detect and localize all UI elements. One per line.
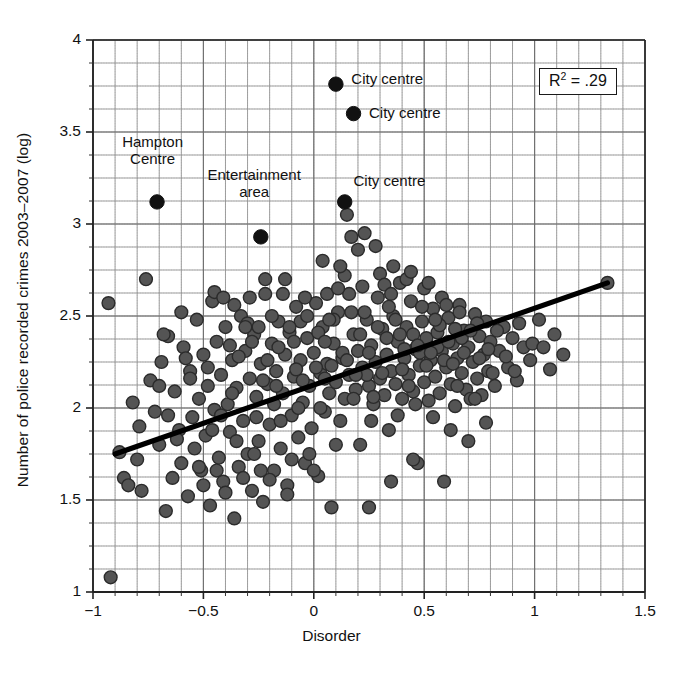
scatter-point	[391, 409, 404, 422]
annotation-entertainment-area-line2: area	[154, 183, 354, 200]
annotation-hampton-centre-line2: Centre	[53, 150, 253, 167]
scatter-point	[299, 291, 312, 304]
scatter-point	[420, 359, 433, 372]
scatter-point	[341, 208, 354, 221]
scatter-point	[332, 282, 345, 295]
scatter-point	[283, 321, 296, 334]
scatter-point	[422, 394, 435, 407]
scatter-point	[382, 300, 395, 313]
scatter-point	[250, 411, 263, 424]
scatter-point	[416, 315, 429, 328]
scatter-point	[486, 367, 499, 380]
scatter-point	[186, 411, 199, 424]
highlight-point	[346, 106, 360, 120]
scatter-point	[369, 240, 382, 253]
annotation-city-centre-1: City centre	[351, 70, 423, 87]
scatter-point	[389, 313, 402, 326]
scatter-point	[447, 357, 460, 370]
scatter-point	[157, 328, 170, 341]
scatter-point	[396, 392, 409, 405]
scatter-point	[243, 372, 256, 385]
scatter-point	[407, 453, 420, 466]
scatter-point	[307, 346, 320, 359]
scatter-point	[325, 359, 338, 372]
scatter-point	[228, 299, 241, 312]
scatter-point	[513, 317, 526, 330]
scatter-point	[201, 361, 214, 374]
scatter-point	[215, 368, 228, 381]
annotation-entertainment-area: Entertainment area	[154, 166, 354, 201]
scatter-point	[217, 291, 230, 304]
scatter-point	[394, 328, 407, 341]
scatter-point	[179, 352, 192, 365]
annotation-hampton-centre-line1: Hampton	[53, 133, 253, 150]
scatter-point	[279, 273, 292, 286]
scatter-point	[491, 324, 504, 337]
plot-canvas	[0, 0, 683, 673]
scatter-point	[458, 346, 471, 359]
scatter-point	[274, 442, 287, 455]
scatter-point	[314, 402, 327, 415]
scatter-point	[254, 464, 267, 477]
scatter-point	[318, 335, 331, 348]
scatter-point	[334, 260, 347, 273]
scatter-point	[482, 343, 495, 356]
scatter-point	[508, 365, 521, 378]
scatter-point	[135, 484, 148, 497]
highlight-point	[329, 77, 343, 91]
r-squared-symbol: R	[549, 72, 561, 89]
scatter-point	[347, 392, 360, 405]
scatter-point	[358, 306, 371, 319]
scatter-point	[544, 363, 557, 376]
scatter-point	[363, 501, 376, 514]
scatter-point	[363, 346, 376, 359]
scatter-point	[259, 288, 272, 301]
scatter-point	[148, 405, 161, 418]
scatter-point	[126, 396, 139, 409]
scatter-point	[246, 484, 259, 497]
annotation-city-centre-3: City centre	[354, 172, 426, 189]
x-axis-tick-label: 1	[505, 602, 565, 620]
scatter-point	[265, 310, 278, 323]
scatter-point	[159, 505, 172, 518]
scatter-point	[224, 339, 237, 352]
highlight-point	[254, 230, 268, 244]
scatter-point	[345, 230, 358, 243]
scatter-point	[272, 341, 285, 354]
scatter-point	[303, 448, 316, 461]
x-axis-tick-label: 1.5	[615, 602, 675, 620]
y-axis-tick-label: 3.5	[35, 122, 81, 140]
scatter-point	[257, 495, 270, 508]
scatter-point	[352, 243, 365, 256]
scatter-point	[276, 288, 289, 301]
scatter-point	[210, 464, 223, 477]
scatter-point	[270, 380, 283, 393]
scatter-point	[153, 380, 166, 393]
scatter-point	[380, 332, 393, 345]
annotation-hampton-centre: Hampton Centre	[53, 133, 253, 168]
scatter-point	[385, 475, 398, 488]
scatter-point	[548, 328, 561, 341]
y-axis-tick-label: 2.5	[35, 306, 81, 324]
scatter-point	[440, 299, 453, 312]
scatter-point	[416, 300, 429, 313]
scatter-point	[429, 370, 442, 383]
scatter-point	[257, 374, 270, 387]
scatter-point	[433, 387, 446, 400]
scatter-point	[261, 354, 274, 367]
scatter-point	[243, 291, 256, 304]
scatter-point	[524, 354, 537, 367]
scatter-point	[382, 424, 395, 437]
scatter-point	[228, 512, 241, 525]
annotation-entertainment-area-line1: Entertainment	[154, 166, 354, 183]
scatter-point	[371, 291, 384, 304]
x-axis-tick-label: −0.5	[173, 602, 233, 620]
scatter-point	[133, 420, 146, 433]
y-axis-tick-label: 1	[35, 582, 81, 600]
scatter-plot-figure: Number of police recorded crimes 2003–20…	[0, 0, 683, 673]
scatter-point	[345, 306, 358, 319]
scatter-point	[537, 341, 550, 354]
scatter-point	[358, 227, 371, 240]
scatter-point	[219, 486, 232, 499]
scatter-point	[270, 365, 283, 378]
